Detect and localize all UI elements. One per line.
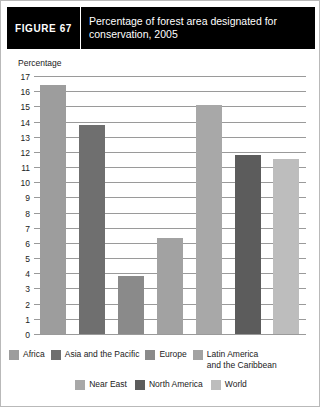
bar-asia-and-the-pacific — [79, 125, 105, 334]
y-axis-tick-label: 13 — [21, 133, 30, 143]
y-axis-tick-label: 17 — [21, 72, 30, 82]
bar-near-east — [196, 105, 222, 334]
legend-swatch-icon — [75, 380, 85, 390]
legend-item: Europe — [145, 349, 186, 360]
legend-row-secondary: Near EastNorth AmericaWorld — [9, 379, 313, 390]
y-axis-tick-label: 2 — [25, 300, 30, 310]
y-axis-tick-label: 1 — [25, 315, 30, 325]
y-axis-tick-label: 7 — [25, 224, 30, 234]
bar-north-america — [235, 155, 261, 334]
y-axis-tick-label: 8 — [25, 209, 30, 219]
gridline: 0 — [34, 334, 306, 335]
y-axis-tick-label: 9 — [25, 193, 30, 203]
y-axis-tick-label: 10 — [21, 178, 30, 188]
legend-item: World — [211, 379, 247, 390]
legend-item: Africa — [9, 349, 45, 360]
plot-area: 17161514131211109876543210 — [34, 76, 306, 335]
legend-swatch-icon — [145, 350, 155, 360]
bar-europe — [118, 276, 144, 334]
legend-label: Africa — [23, 349, 45, 360]
y-axis-tick-label: 6 — [25, 239, 30, 249]
figure-title: Percentage of forest area designated for… — [81, 7, 315, 49]
legend-swatch-icon — [193, 350, 203, 360]
y-axis-tick-label: 0 — [25, 330, 30, 340]
bar-world — [273, 159, 299, 334]
legend-label: Near East — [89, 379, 127, 390]
legend-item: Latin America and the Caribbean — [193, 349, 277, 371]
bar-latin-america-and-the-caribbean — [157, 238, 183, 334]
legend-label: Europe — [159, 349, 186, 360]
figure-header: FIGURE 67 Percentage of forest area desi… — [7, 7, 315, 49]
chart-legend: AfricaAsia and the PacificEuropeLatin Am… — [9, 349, 313, 390]
legend-label: World — [225, 379, 247, 390]
legend-label: North America — [149, 379, 203, 390]
figure-number-tag: FIGURE 67 — [7, 7, 81, 49]
y-axis-tick-label: 3 — [25, 284, 30, 294]
legend-label: Latin America and the Caribbean — [207, 349, 277, 371]
legend-item: Near East — [75, 379, 127, 390]
y-axis-tick-label: 14 — [21, 118, 30, 128]
y-axis-tick-label: 4 — [25, 269, 30, 279]
y-axis-tick-label: 16 — [21, 87, 30, 97]
legend-item: Asia and the Pacific — [51, 349, 140, 360]
y-axis-tick-label: 12 — [21, 148, 30, 158]
y-axis-title: Percentage — [18, 58, 61, 68]
bar-series — [34, 76, 306, 334]
legend-label: Asia and the Pacific — [65, 349, 140, 360]
legend-swatch-icon — [9, 350, 19, 360]
y-axis-tick-label: 15 — [21, 102, 30, 112]
legend-swatch-icon — [211, 380, 221, 390]
y-axis-tick-label: 5 — [25, 254, 30, 264]
bar-africa — [40, 85, 66, 334]
legend-row-primary: AfricaAsia and the PacificEuropeLatin Am… — [9, 349, 313, 371]
legend-swatch-icon — [51, 350, 61, 360]
legend-swatch-icon — [135, 380, 145, 390]
y-axis-tick-label: 11 — [21, 163, 30, 173]
figure-panel: FIGURE 67 Percentage of forest area desi… — [0, 0, 320, 407]
legend-item: North America — [135, 379, 203, 390]
